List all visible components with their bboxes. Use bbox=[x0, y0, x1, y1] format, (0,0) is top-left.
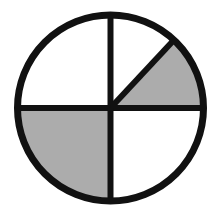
fraction-circle-svg bbox=[0, 0, 219, 220]
fraction-circle-diagram bbox=[0, 0, 219, 220]
